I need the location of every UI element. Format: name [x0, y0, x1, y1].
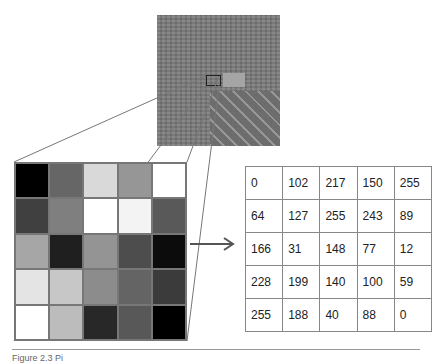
pixel-cell: [49, 234, 83, 269]
table-cell: 59: [394, 266, 431, 299]
pixel-grid: [14, 162, 187, 341]
pixel-cell: [15, 269, 49, 304]
pixel-cell: [118, 305, 152, 340]
table-cell: 217: [320, 167, 357, 200]
pixel-cell: [83, 234, 117, 269]
table-row: 6412725524389: [246, 200, 432, 233]
table-cell: 0: [246, 167, 283, 200]
table-cell: 102: [283, 167, 320, 200]
table-cell: 228: [246, 266, 283, 299]
pixel-cell: [83, 269, 117, 304]
pixel-cell: [83, 198, 117, 233]
table-cell: 89: [394, 200, 431, 233]
table-cell: 148: [320, 233, 357, 266]
table-cell: 243: [357, 200, 394, 233]
table-cell: 77: [357, 233, 394, 266]
table-cell: 127: [283, 200, 320, 233]
figure-caption: Figure 2.3 Pi: [12, 353, 63, 363]
pixel-cell: [49, 269, 83, 304]
pixel-cell: [49, 198, 83, 233]
table-cell: 64: [246, 200, 283, 233]
table-cell: 0: [394, 299, 431, 332]
table-cell: 150: [357, 167, 394, 200]
table-cell: 40: [320, 299, 357, 332]
table-row: 0102217150255: [246, 167, 432, 200]
table-cell: 12: [394, 233, 431, 266]
table-row: 166311487712: [246, 233, 432, 266]
pixel-cell: [152, 163, 186, 198]
pixel-cell: [152, 198, 186, 233]
pixel-cell: [118, 163, 152, 198]
pixel-cell: [15, 234, 49, 269]
table-cell: 255: [394, 167, 431, 200]
pixel-cell: [83, 163, 117, 198]
pixel-cell: [118, 269, 152, 304]
pixel-cell: [152, 234, 186, 269]
pixel-cell: [49, 305, 83, 340]
pixel-cell: [118, 234, 152, 269]
table-cell: 166: [246, 233, 283, 266]
table-cell: 88: [357, 299, 394, 332]
table-cell: 31: [283, 233, 320, 266]
pixel-cell: [83, 305, 117, 340]
pixel-cell: [15, 198, 49, 233]
pixel-cell: [49, 163, 83, 198]
pixel-value-table: 0102217150255641272552438916631148771222…: [245, 166, 432, 332]
pixel-cell: [15, 305, 49, 340]
pixel-cell: [118, 198, 152, 233]
pixel-cell: [152, 269, 186, 304]
table-row: 22819914010059: [246, 266, 432, 299]
pixel-cell: [152, 305, 186, 340]
table-cell: 100: [357, 266, 394, 299]
table-cell: 199: [283, 266, 320, 299]
table-cell: 255: [246, 299, 283, 332]
table-cell: 140: [320, 266, 357, 299]
caption-rule: [12, 349, 420, 350]
table-cell: 255: [320, 200, 357, 233]
pixel-cell: [15, 163, 49, 198]
table-row: 25518840880: [246, 299, 432, 332]
table-cell: 188: [283, 299, 320, 332]
